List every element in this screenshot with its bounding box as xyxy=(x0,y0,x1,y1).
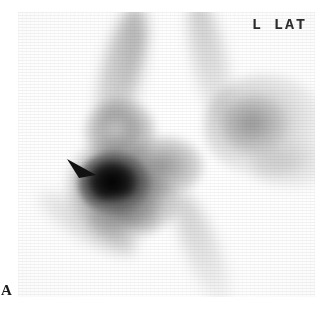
film-raster-texture-vertical xyxy=(18,12,315,297)
figure-panel-label: A xyxy=(1,283,12,298)
arrowhead-icon xyxy=(65,157,97,181)
scintigraphy-scan-image: L LAT xyxy=(18,12,315,297)
view-orientation-label: L LAT xyxy=(252,18,307,33)
